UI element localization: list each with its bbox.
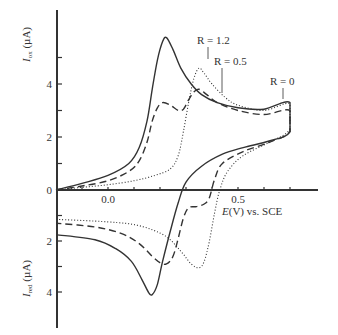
y-tick-label: 2	[47, 131, 53, 143]
series-r-1-2	[56, 68, 290, 268]
data-series	[56, 37, 290, 295]
series-r-0-5	[56, 89, 290, 264]
annotation-r-0-5: R = 0.5	[214, 55, 247, 67]
annotation-r-1-2: R = 1.2	[197, 34, 230, 46]
axes: 0.00.502424	[47, 10, 319, 328]
annotation-r-0: R = 0	[270, 75, 295, 87]
x-tick-label: 0.5	[231, 193, 245, 205]
y-tick-label: 4	[47, 286, 53, 298]
x-axis-label: E(V) vs. SCE	[221, 205, 282, 218]
y-axis-label-oxidation: Iox (µA)	[20, 27, 34, 63]
y-tick-label: 4	[47, 78, 53, 90]
y-tick-label: 2	[47, 235, 53, 247]
y-tick-label: 0	[47, 184, 53, 196]
cyclic-voltammogram-chart: 0.00.502424 Iox (µA) Ired (µA) E(V) vs. …	[0, 0, 338, 335]
y-axis-label-reduction: Ired (µA)	[20, 260, 34, 298]
x-tick-label: 0.0	[101, 193, 115, 205]
